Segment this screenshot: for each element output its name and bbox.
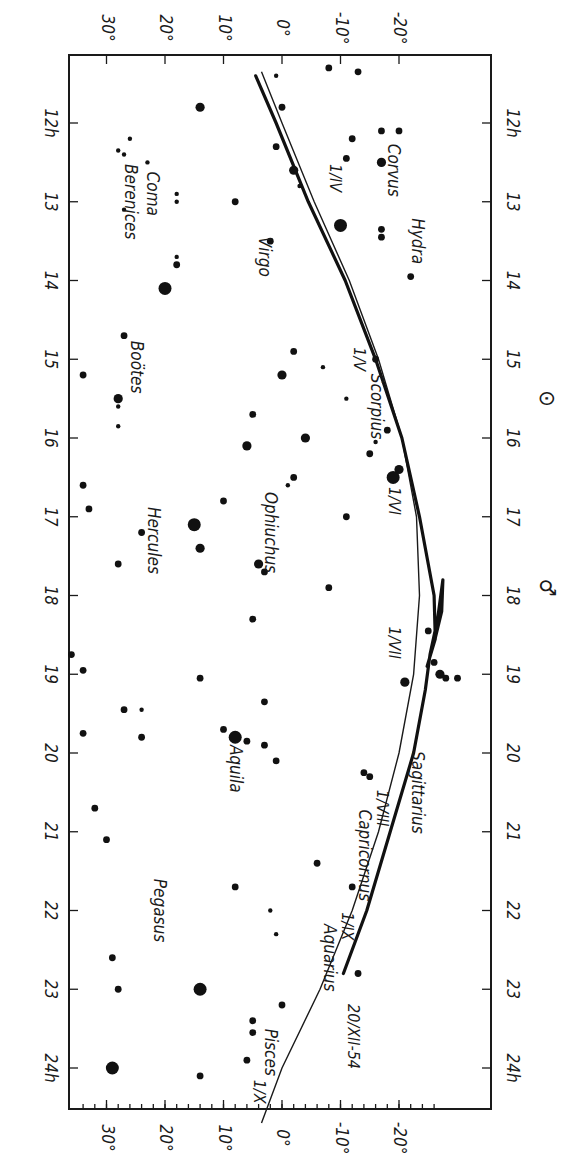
star-marker [145,160,149,164]
dec-tick-label-top: 30° [98,14,118,41]
ra-tick-label-left: 19 [41,665,61,684]
star-marker [173,261,180,268]
star-marker [232,198,239,205]
ra-tick-label-left: 13 [41,192,61,211]
star-marker [116,148,120,152]
constellation-label: Pisces [261,1029,281,1076]
ra-tick-label-right: 20 [503,743,523,762]
star-marker [138,529,145,536]
ra-tick-label-right: 23 [503,980,523,999]
star-marker [194,983,207,996]
star-marker [349,135,356,142]
star-marker [232,883,239,890]
star-marker [80,667,87,674]
star-marker [106,1062,119,1075]
star-marker [249,1029,256,1036]
star-marker [268,908,272,912]
star-marker [355,970,362,977]
dec-tick-label-top: -20° [390,12,410,45]
star-marker [261,742,268,749]
star-marker [290,348,297,355]
star-marker [431,659,438,666]
sun-symbol-icon: ⊙ [535,390,560,407]
star-marker [387,471,400,484]
dec-tick-label-bottom: 30° [98,1124,118,1151]
ra-tick-label-right: 13 [503,192,523,211]
star-marker [290,474,297,481]
date-label: 1/VII [385,627,404,659]
star-marker [274,932,278,936]
ra-tick-label-left: 18 [41,586,61,606]
date-label: 1/V [350,347,369,372]
star-marker [197,1072,204,1079]
constellation-label: Sagittarius [408,751,428,834]
star-marker [115,986,122,993]
ra-tick-label-left: 24h [41,1053,61,1082]
star-marker [396,127,403,134]
star-marker [196,103,205,112]
star-marker [229,731,242,744]
star-marker [116,424,120,428]
star-marker [244,738,251,745]
ra-tick-label-left: 23 [41,980,61,999]
star-marker [279,104,286,111]
star-marker [80,730,87,737]
star-marker [68,651,75,658]
star-marker [121,706,128,713]
star-marker [109,954,116,961]
constellation-label: Hydra [408,218,428,264]
star-marker [366,773,373,780]
star-marker [261,698,268,705]
star-marker [159,282,172,295]
star-marker [86,505,93,512]
dec-tick-label-bottom: -20° [390,1122,410,1155]
star-marker [378,234,385,241]
star-marker [273,757,280,764]
star-marker [220,726,227,733]
star-marker [115,561,122,568]
ra-tick-label-right: 18 [503,586,523,606]
date-label: 1/IX [338,912,357,941]
star-marker [122,152,126,156]
star-marker [407,273,414,280]
star-marker [343,155,350,162]
star-marker [334,219,347,232]
constellation-label: Virgo [255,237,275,277]
ra-tick-label-right: 16 [503,428,523,448]
star-marker [454,675,461,682]
star-marker [242,441,251,450]
star-marker [121,332,128,339]
star-marker [91,805,98,812]
ra-tick-label-left: 16 [41,428,61,448]
star-marker [378,127,385,134]
star-marker [361,769,368,776]
mars-symbol-icon: ♂ [535,579,560,597]
ra-tick-label-right: 19 [503,665,523,684]
star-marker [80,372,87,379]
ra-tick-label-left: 20 [41,743,61,762]
date-label: 1/X [250,1080,269,1105]
star-marker [325,64,332,71]
star-marker [321,365,325,369]
constellation-label: Berenices [121,164,141,239]
ra-tick-label-left: 17 [41,507,61,527]
star-marker [249,411,256,418]
constellation-label: Hercules [144,507,164,574]
star-marker [175,255,179,259]
constellation-label: Coma [143,172,163,216]
star-marker [314,860,321,867]
star-marker [373,440,377,444]
constellation-label: Aquila [226,744,246,793]
mars-path-star-chart: 30°30°20°20°10°10°0°0°-10°-10°-20°-20°12… [0,0,572,1168]
ra-tick-label-right: 15 [503,350,523,369]
star-marker [249,616,256,623]
constellation-label: Capricornus [355,810,375,902]
ra-tick-label-right: 22 [503,901,523,920]
star-marker [175,200,179,204]
star-marker [344,396,348,400]
star-marker [301,433,310,442]
star-marker [80,482,87,489]
star-marker [175,192,179,196]
dec-tick-label-bottom: -10° [332,1122,352,1155]
axis-tick-labels: 30°30°20°20°10°10°0°0°-10°-10°-20°-20°12… [41,12,523,1155]
